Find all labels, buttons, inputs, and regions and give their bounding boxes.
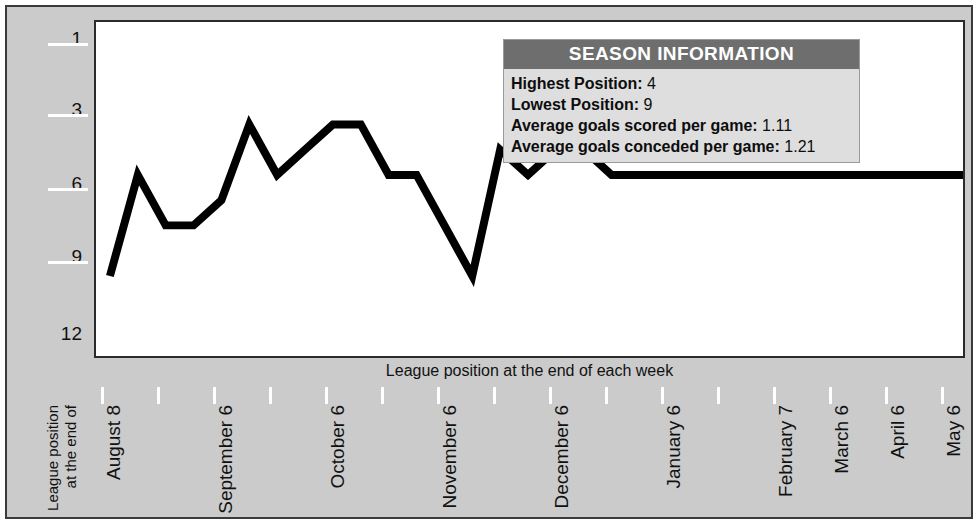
x-tick-label-february: February 7: [775, 405, 797, 497]
chart-panel: 1 3 6 9 12 SEASON INFORMATION Highest Po…: [5, 5, 973, 519]
x-tick-mark-2: [213, 387, 216, 404]
info-row-avg-goals-scored: Average goals scored per game: 1.11: [511, 115, 853, 136]
info-value-avg-goals-conceded: 1.21: [784, 138, 815, 155]
y-tick-mark-9: [48, 261, 88, 264]
info-row-highest-position: Highest Position: 4: [511, 73, 853, 94]
y-tick-mark-3: [48, 114, 88, 117]
x-tick-mark-13: [829, 387, 832, 404]
info-row-lowest-position: Lowest Position: 9: [511, 94, 853, 115]
x-tick-label-april: April 6: [887, 405, 909, 459]
x-tick-label-september: September 6: [215, 405, 237, 514]
info-value-lowest-position: 9: [643, 96, 652, 113]
x-tick-mark-5: [381, 387, 384, 404]
x-axis-title: League position at the end of each week: [94, 362, 965, 380]
x-tick-mark-1: [157, 387, 160, 404]
x-tick-mark-15: [941, 387, 944, 404]
info-key-avg-goals-conceded: Average goals conceded per game:: [511, 138, 780, 155]
y-axis-title-line-1: League position: [45, 405, 62, 511]
season-information-title: SEASON INFORMATION: [504, 40, 859, 69]
x-tick-label-november: November 6: [439, 405, 461, 509]
y-tick-label-12: 12: [7, 324, 82, 343]
x-tick-mark-8: [549, 387, 552, 404]
info-key-avg-goals-scored: Average goals scored per game:: [511, 117, 758, 134]
x-tick-mark-14: [885, 387, 888, 404]
x-tick-mark-3: [269, 387, 272, 404]
x-tick-mark-6: [437, 387, 440, 404]
info-value-highest-position: 4: [647, 75, 656, 92]
info-value-avg-goals-scored: 1.11: [762, 117, 792, 134]
x-tick-label-august: August 8: [103, 405, 125, 480]
x-tick-mark-12: [773, 387, 776, 404]
x-tick-label-october: October 6: [327, 405, 349, 488]
x-tick-mark-10: [661, 387, 664, 404]
y-tick-mark-1: [48, 43, 88, 46]
y-tick-mark-6: [48, 188, 88, 191]
x-tick-mark-4: [325, 387, 328, 404]
x-tick-mark-9: [605, 387, 608, 404]
x-tick-label-december: December 6: [551, 405, 573, 509]
x-tick-mark-7: [493, 387, 496, 404]
x-tick-mark-11: [717, 387, 720, 404]
chart-screenshot: 1 3 6 9 12 SEASON INFORMATION Highest Po…: [0, 0, 980, 525]
season-information-body: Highest Position: 4 Lowest Position: 9 A…: [504, 69, 859, 162]
info-row-avg-goals-conceded: Average goals conceded per game: 1.21: [511, 136, 853, 157]
x-tick-mark-0: [101, 387, 104, 404]
x-tick-label-march: March 6: [831, 405, 853, 474]
y-axis-title-line-2: at the end of: [63, 405, 80, 488]
x-tick-label-may: May 6: [943, 405, 965, 457]
season-information-box: SEASON INFORMATION Highest Position: 4 L…: [503, 39, 860, 163]
plot-area: SEASON INFORMATION Highest Position: 4 L…: [94, 20, 965, 358]
x-tick-label-january: January 6: [663, 405, 685, 488]
info-key-lowest-position: Lowest Position:: [511, 96, 639, 113]
info-key-highest-position: Highest Position:: [511, 75, 643, 92]
